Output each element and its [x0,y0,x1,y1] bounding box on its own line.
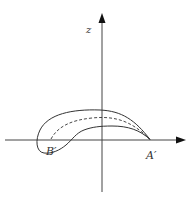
horizontal-axis [5,137,186,144]
vertical-axis [99,13,106,192]
mean-line-curve [51,117,150,139]
point-label-a-prime: A′ [145,149,157,162]
point-label-b-prime: B′ [45,145,57,158]
diagram-canvas: z B′ A′ [0,0,194,203]
vertical-axis-label: z [85,24,92,35]
horizontal-axis-arrow-icon [176,137,186,144]
vertical-axis-arrow-icon [99,13,106,23]
